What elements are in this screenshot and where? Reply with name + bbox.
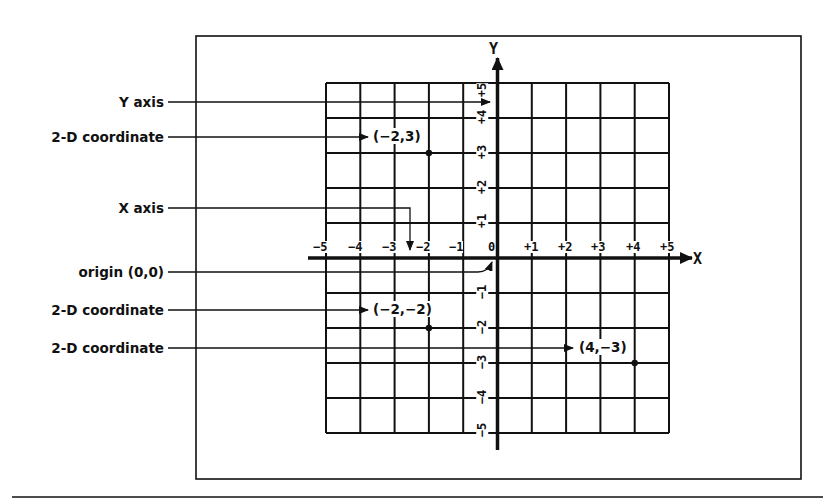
y-tick-neg3: −3 <box>476 355 488 369</box>
callout-label-y-axis: Y axis <box>4 94 164 110</box>
callout-label-point-2: 2-D coordinate <box>4 302 164 318</box>
callout-label-x-axis: X axis <box>4 200 164 216</box>
y-tick-pos4: +4 <box>476 110 488 124</box>
x-tick-neg1: −1 <box>449 241 463 253</box>
callout-label-origin: origin (0,0) <box>4 264 164 280</box>
point-label-neg2-neg2: (−2,−2) <box>372 301 433 317</box>
y-tick-neg1: −1 <box>476 285 488 299</box>
x-tick-neg4: −4 <box>348 241 362 253</box>
point-label-4-neg3: (4,−3) <box>578 339 628 355</box>
x-tick-pos1: +1 <box>524 241 538 253</box>
x-tick-neg3: −3 <box>382 241 396 253</box>
callout-leaders <box>168 102 573 348</box>
y-tick-neg4: −4 <box>476 390 488 404</box>
y-tick-neg5: −5 <box>476 423 488 437</box>
x-tick-pos3: +3 <box>591 241 605 253</box>
y-tick-pos3: +3 <box>476 145 488 159</box>
callout-label-point-1: 2-D coordinate <box>4 129 164 145</box>
y-tick-neg2: −2 <box>476 320 488 334</box>
x-axis-name: X <box>693 250 702 268</box>
point-marker-point-3 <box>632 360 638 366</box>
point-marker-point-2 <box>426 325 432 331</box>
coordinate-diagram: Y axis 2-D coordinate X axis origin (0,0… <box>0 0 823 504</box>
x-tick-pos5: +5 <box>660 241 674 253</box>
x-tick-pos4: +4 <box>626 241 640 253</box>
x-tick-0: 0 <box>488 241 495 253</box>
x-tick-neg5: −5 <box>313 241 327 253</box>
x-tick-pos2: +2 <box>558 241 572 253</box>
x-tick-neg2: −2 <box>416 241 430 253</box>
callout-label-point-3: 2-D coordinate <box>4 340 164 356</box>
y-tick-pos2: +2 <box>476 180 488 194</box>
point-label-neg2-3: (−2,3) <box>372 128 422 144</box>
y-tick-pos5: +5 <box>476 83 488 97</box>
y-axis-name: Y <box>489 40 498 58</box>
y-tick-pos1: +1 <box>476 214 488 228</box>
point-marker-point-1 <box>426 150 432 156</box>
